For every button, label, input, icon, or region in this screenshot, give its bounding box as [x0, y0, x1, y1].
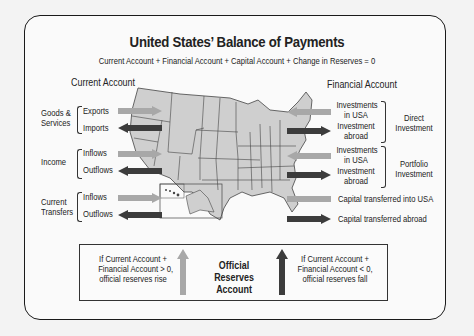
imports-outflow-arrow-icon [118, 123, 162, 133]
reserves-rise-text: If Current Account + Financial Account >… [98, 254, 168, 284]
portfolio-abroad-arrow-icon [287, 170, 331, 180]
direct-abroad-line2: abroad [336, 131, 375, 141]
portfolio-investment-label: Portfolio Investment [392, 159, 436, 179]
portfolio-abroad-line2: abroad [336, 176, 375, 186]
goods-services-label-2: Services [41, 118, 70, 128]
direct-investment-line2: Investment [392, 123, 436, 133]
direct-abroad-line1: Investment [336, 121, 375, 131]
balance-formula: Current Account + Financial Account + Ca… [36, 56, 439, 66]
direct-investment-line1: Direct [392, 113, 436, 123]
portfolio-investment-brace [381, 146, 386, 188]
exports-inflow-arrow-icon [118, 106, 162, 116]
reserves-rise-line1: If Current Account + [98, 254, 168, 264]
direct-in-usa-arrow-icon [287, 107, 331, 117]
reserves-fall-text: If Current Account + Financial Account <… [297, 254, 374, 284]
current-transfers-brace [77, 192, 82, 222]
direct-investment-label: Direct Investment [392, 113, 436, 133]
transfers-inflow-arrow-icon [118, 193, 162, 203]
portfolio-in-usa-arrow-icon [287, 151, 331, 161]
portfolio-in-usa-line2: in USA [336, 155, 375, 165]
official-reserves-title: Official Reserves Account [198, 259, 269, 295]
income-brace [77, 149, 82, 179]
portfolio-in-usa-line1: Investments [336, 145, 375, 155]
income-inflows-label: Inflows [83, 148, 107, 158]
reserves-rise-line3: official reserves rise [98, 274, 168, 284]
income-label: Income [41, 157, 66, 167]
reserves-fall-line2: Financial Account < 0, [297, 264, 374, 274]
imports-label: Imports [83, 123, 109, 133]
portfolio-abroad-line1: Investment [336, 166, 375, 176]
current-transfers-label-2: Transfers [41, 207, 73, 217]
portfolio-investment-line2: Investment [392, 169, 436, 179]
direct-in-usa-label: Investments in USA [336, 100, 375, 120]
income-inflow-arrow-icon [118, 149, 162, 159]
reserves-fall-arrow-icon [276, 249, 288, 295]
goods-services-brace [77, 106, 82, 134]
reserves-rise-line2: Financial Account > 0, [98, 264, 168, 274]
transfers-outflows-label: Outflows [83, 209, 113, 219]
direct-in-usa-line2: in USA [336, 110, 375, 120]
portfolio-abroad-label: Investment abroad [336, 166, 375, 186]
income-outflows-label: Outflows [83, 165, 113, 175]
direct-abroad-arrow-icon [287, 126, 331, 136]
reserves-rise-arrow-icon [177, 249, 189, 295]
diagram-title: United States’ Balance of Payments [28, 33, 445, 50]
capital-into-usa-arrow-icon [287, 194, 331, 204]
official-reserves-title-line1: Official Reserves [198, 259, 269, 283]
capital-abroad-label: Capital transferred abroad [338, 214, 427, 224]
portfolio-investment-line1: Portfolio [392, 159, 436, 169]
transfers-inflows-label: Inflows [83, 192, 107, 202]
capital-into-usa-label: Capital transferred into USA [338, 194, 433, 204]
reserves-fall-line1: If Current Account + [297, 254, 374, 264]
direct-investment-brace [381, 101, 386, 143]
official-reserves-title-line2: Account [198, 283, 269, 295]
transfers-outflow-arrow-icon [118, 210, 162, 220]
capital-abroad-arrow-icon [287, 214, 331, 224]
direct-abroad-label: Investment abroad [336, 121, 375, 141]
current-transfers-label-1: Current [41, 197, 67, 207]
reserves-fall-line3: official reserves fall [297, 274, 374, 284]
portfolio-in-usa-label: Investments in USA [336, 145, 375, 165]
income-outflow-arrow-icon [118, 166, 162, 176]
financial-account-heading: Financial Account [327, 78, 397, 90]
exports-label: Exports [83, 106, 109, 116]
goods-services-label-1: Goods & [41, 108, 71, 118]
direct-in-usa-line1: Investments [336, 100, 375, 110]
